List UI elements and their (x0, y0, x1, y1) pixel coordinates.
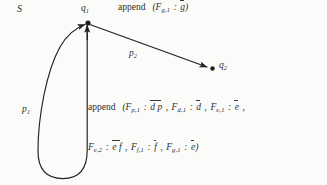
annotation-bottom-term-2-sep: : (184, 142, 187, 152)
edge-p2-arrow (91, 25, 208, 67)
annotation-top: append(Fg,1:g) (118, 2, 188, 13)
annotation-top-term-0-sub: g,1 (161, 6, 170, 13)
annotation-top-keyword: append (118, 2, 145, 12)
node-label-q2: q2 (219, 60, 227, 71)
annotation-top-close: ) (185, 2, 188, 12)
annotation-bottom-term-0-value: e f (112, 142, 121, 152)
node-q1-dot (85, 20, 90, 25)
annotation-middle-term-0-sep: : (144, 102, 147, 112)
annotation-middle-term-2-sub: e,1 (216, 106, 224, 113)
edge-label-p1: p1 (22, 104, 30, 115)
annotation-middle: append(Fp,1:d p,Fd,1:d,Fe,1:e, (88, 102, 245, 113)
annotation-bottom-term-0-sep: : (106, 142, 109, 152)
node-label-q1-sub: 1 (86, 7, 89, 14)
annotation-bottom: Fe,2:e f,Ff,1:f,Fg,1:e) (88, 142, 198, 153)
annotation-middle-term-1-sub: d,1 (177, 106, 186, 113)
annotation-bottom-term-1-value: f (154, 142, 157, 152)
annotation-middle-term-1-value: d (196, 102, 201, 112)
annotation-middle-keyword: append (88, 102, 115, 112)
node-label-q2-sub: 2 (224, 64, 227, 71)
annotation-middle-term-0-value: d p (150, 102, 162, 112)
diagram-canvas (0, 0, 327, 185)
set-label-s: S (17, 3, 22, 14)
annotation-middle-term-0-sub: p,1 (131, 106, 140, 113)
annotation-middle-term-2-sep: : (228, 102, 231, 112)
edge-label-p2-sub: 2 (134, 52, 137, 59)
edge-label-p1-sub: 1 (27, 108, 30, 115)
annotation-bottom-term-0-sub: e,2 (94, 146, 102, 153)
edge-p1-self-loop (38, 25, 87, 179)
annotation-bottom-close: ) (195, 142, 198, 152)
annotation-top-term-0-sep: : (174, 2, 177, 12)
annotation-bottom-term-1-sep: : (148, 142, 151, 152)
annotation-middle-trailing-comma: , (243, 102, 245, 112)
node-q2-dot (210, 66, 214, 70)
annotation-top-term-0-value: g (180, 2, 185, 12)
annotation-middle-term-2-value: e (235, 102, 239, 112)
node-label-q1: q1 (81, 3, 89, 14)
annotation-middle-term-1-sep: : (190, 102, 193, 112)
annotation-bottom-term-1-sub: f,1 (137, 146, 144, 153)
edge-label-p2: p2 (129, 48, 137, 59)
annotation-bottom-term-2-sub: g,1 (172, 146, 181, 153)
annotation-bottom-term-2-value: e (191, 142, 195, 152)
